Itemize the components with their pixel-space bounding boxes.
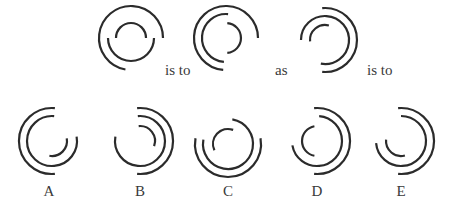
middle-arc xyxy=(108,38,154,61)
middle-arc xyxy=(301,16,349,64)
figure-premise-3 xyxy=(301,8,357,72)
inner-arc xyxy=(49,138,67,156)
middle-arc xyxy=(27,116,77,166)
figure-option-e[interactable] xyxy=(376,108,434,174)
option-label-d[interactable]: D xyxy=(312,184,323,199)
outer-arc xyxy=(398,108,434,174)
figure-option-d[interactable] xyxy=(292,108,350,174)
inner-arc xyxy=(213,129,233,150)
outer-arc xyxy=(314,108,350,174)
middle-arc xyxy=(376,116,426,166)
option-label-c[interactable]: C xyxy=(223,184,233,199)
connector-is-to-1: is to xyxy=(165,63,190,78)
middle-arc xyxy=(202,14,228,62)
arc-figures-canvas xyxy=(0,0,455,213)
connector-as: as xyxy=(275,63,288,78)
figure-premise-2 xyxy=(194,6,258,70)
middle-arc xyxy=(292,116,342,166)
figure-premise-1 xyxy=(99,6,163,70)
outer-arc xyxy=(194,6,258,70)
inner-arc xyxy=(302,126,314,156)
connector-is-to-2: is to xyxy=(367,63,392,78)
option-label-e[interactable]: E xyxy=(396,184,405,199)
figure-option-c[interactable] xyxy=(195,119,261,177)
inner-arc xyxy=(227,23,241,53)
inner-arc xyxy=(310,25,329,41)
middle-arc xyxy=(115,116,165,166)
middle-arc xyxy=(203,119,253,169)
option-label-b[interactable]: B xyxy=(135,184,145,199)
outer-arc xyxy=(19,108,55,174)
option-label-a[interactable]: A xyxy=(44,184,55,199)
outer-arc xyxy=(195,138,261,177)
outer-arc xyxy=(322,8,357,72)
inner-arc xyxy=(116,23,146,38)
analogy-puzzle: is to as is to A B C D E xyxy=(0,0,455,213)
figure-option-a[interactable] xyxy=(19,108,77,174)
inner-arc xyxy=(386,140,405,156)
figure-option-b[interactable] xyxy=(115,108,173,174)
inner-arc xyxy=(139,126,155,146)
